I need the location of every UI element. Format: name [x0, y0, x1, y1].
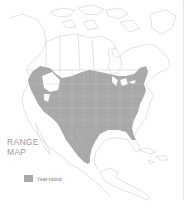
- map-title: RANGE MAP: [7, 137, 39, 157]
- legend-swatch-year-round: [24, 175, 33, 182]
- map-legend: Year-round: [24, 175, 62, 182]
- legend-label-year-round: Year-round: [37, 176, 62, 182]
- page-edge-divider: [183, 0, 184, 200]
- year-round-range: [28, 66, 148, 164]
